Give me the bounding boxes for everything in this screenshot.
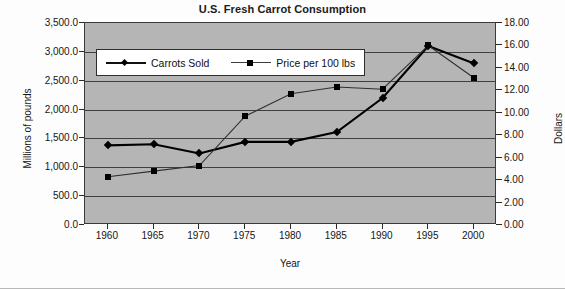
x-axis-tick-label: 1965 [128, 230, 178, 241]
x-axis-tick-label: 1975 [219, 230, 269, 241]
legend-label-carrots-sold: Carrots Sold [151, 57, 209, 69]
data-point-square [380, 86, 386, 92]
data-point-square [334, 84, 340, 90]
square-marker-icon [231, 58, 271, 68]
chart-title: U.S. Fresh Carrot Consumption [0, 3, 565, 15]
y-axis-right-tick-label: 6.00 [504, 151, 560, 162]
x-axis-tick-label: 1990 [357, 230, 407, 241]
y-axis-right-tick-label: 0.00 [504, 219, 560, 230]
data-point-square [196, 163, 202, 169]
legend-label-price-per-100lbs: Price per 100 lbs [276, 57, 355, 69]
y-axis-right-tick-label: 8.00 [504, 129, 560, 140]
x-axis-tick-label: 1985 [311, 230, 361, 241]
y-axis-left-tick-label: 2,500.0 [0, 74, 78, 85]
data-point-square [151, 168, 157, 174]
data-point-square [471, 75, 477, 81]
data-point-square [242, 113, 248, 119]
y-axis-right-tick-label: 2.00 [504, 196, 560, 207]
data-point-square [425, 42, 431, 48]
y-axis-right-tick-label: 18.00 [504, 17, 560, 28]
x-axis-tick-label: 1960 [82, 230, 132, 241]
y-axis-left-tick-label: 2,000.0 [0, 103, 78, 114]
y-axis-left-tickmark [79, 224, 84, 225]
x-axis-tick-label: 1995 [402, 230, 452, 241]
y-axis-left-tick-label: 1,500.0 [0, 132, 78, 143]
x-axis-title: Year [84, 258, 496, 269]
legend-item-price-per-100lbs: Price per 100 lbs [231, 57, 355, 69]
y-axis-left-tick-label: 3,000.0 [0, 45, 78, 56]
y-axis-right-tick-label: 4.00 [504, 174, 560, 185]
carrot-consumption-chart: U.S. Fresh Carrot Consumption Millions o… [0, 0, 565, 289]
data-point-square [288, 91, 294, 97]
y-axis-right-tick-label: 16.00 [504, 39, 560, 50]
x-axis-tick-label: 2000 [448, 230, 498, 241]
y-axis-left-tick-label: 3,500.0 [0, 17, 78, 28]
legend-item-carrots-sold: Carrots Sold [106, 57, 209, 69]
y-axis-left-tick-label: 0.0 [0, 219, 78, 230]
y-axis-right-tick-label: 10.00 [504, 106, 560, 117]
x-axis-tick-label: 1980 [265, 230, 315, 241]
y-axis-right-tick-label: 12.00 [504, 84, 560, 95]
x-axis-tick-label: 1970 [173, 230, 223, 241]
diamond-marker-icon [106, 58, 146, 68]
y-axis-left-tick-label: 1,000.0 [0, 161, 78, 172]
y-axis-left-tick-label: 500.0 [0, 190, 78, 201]
chart-legend: Carrots Sold Price per 100 lbs [96, 49, 365, 76]
data-point-square [105, 174, 111, 180]
y-axis-right-tick-label: 14.00 [504, 61, 560, 72]
